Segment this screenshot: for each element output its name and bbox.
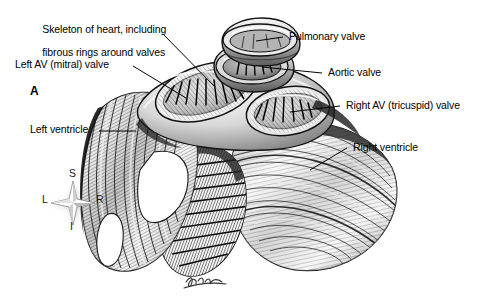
figure-canvas: Skeleton of heart, including fibrous rin… bbox=[0, 0, 495, 308]
label-skeleton-of-heart-line1: Skeleton of heart, including bbox=[42, 23, 166, 35]
label-skeleton-of-heart-line2: fibrous rings around valves bbox=[42, 46, 165, 58]
compass-label-right: R bbox=[96, 193, 104, 205]
label-aortic-valve: Aortic valve bbox=[328, 67, 381, 79]
label-pulmonary-valve: Pulmonary valve bbox=[289, 31, 365, 43]
compass-label-left: L bbox=[42, 193, 48, 205]
orientation-compass: S I L R bbox=[38, 168, 108, 236]
compass-label-inferior: I bbox=[70, 220, 73, 232]
panel-letter: A bbox=[30, 84, 39, 98]
artist-signature bbox=[184, 278, 226, 288]
compass-label-superior: S bbox=[69, 167, 76, 179]
label-left-ventricle: Left ventricle bbox=[30, 124, 88, 136]
label-left-av-mitral-valve: Left AV (mitral) valve bbox=[15, 59, 109, 71]
label-right-ventricle: Right ventricle bbox=[353, 142, 418, 154]
label-right-av-tricuspid-valve: Right AV (tricuspid) valve bbox=[346, 100, 460, 112]
